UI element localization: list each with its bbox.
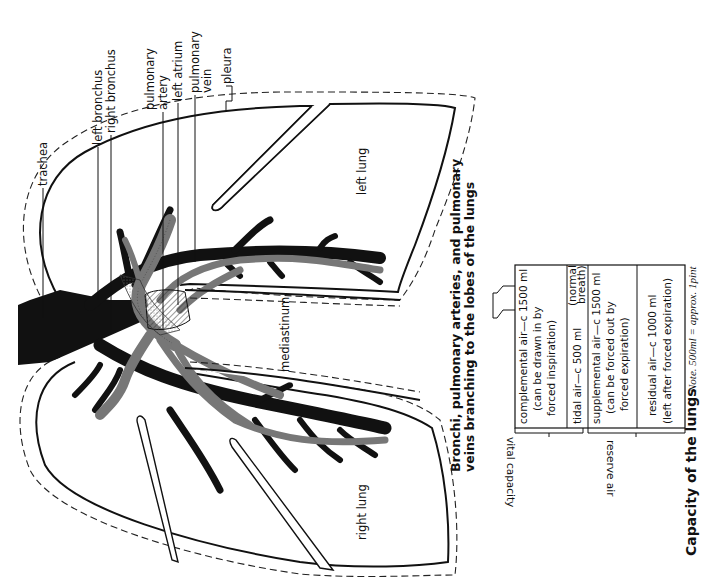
right-lung: [20, 357, 457, 577]
row-residual-line1: residual air—c 1000 ml: [646, 295, 658, 416]
label-right-bronchus: right bronchus: [104, 49, 118, 133]
row-residual-line2: (left after forced expiration): [661, 278, 673, 424]
row-tidal-line1: tidal air—c 500 ml: [571, 328, 583, 424]
label-left-atrium: left atrium: [171, 41, 185, 101]
capacity-title: Capacity of the lungs: [683, 388, 699, 556]
row-supplemental-line1: supplemental air—c 1500 ml: [590, 273, 602, 424]
row-supplemental-line2: (can be forced out by: [604, 301, 616, 414]
label-left-bronchus: left bronchus: [91, 70, 105, 145]
row-complemental-line1: complemental air—c 1500 ml: [517, 269, 529, 424]
capacity-table: complemental air—c 1500 ml (can be drawn…: [493, 265, 685, 507]
lungs-diagram: trachea left bronchus right bronchus pul…: [0, 0, 702, 579]
caption-line-1: Bronchi, pulmonary arteries, and pulmona…: [448, 159, 463, 472]
label-mediastinum: mediastinum: [278, 297, 292, 372]
row-complemental-line2: (can be drawn in by: [531, 306, 543, 411]
row-tidal-aside2: breath): [575, 265, 587, 304]
group-reserve-air: reserve air: [605, 440, 617, 497]
row-complemental-line3: forced inspiration): [545, 320, 557, 416]
label-pulmonary-vein-2: vein: [200, 69, 214, 93]
group-vital-capacity: vital capacity: [505, 437, 517, 507]
label-right-lung: right lung: [355, 484, 369, 540]
label-pulmonary-artery-1: pulmonary: [143, 48, 157, 110]
label-trachea: trachea: [36, 142, 50, 186]
label-pulmonary-artery-2: artery: [156, 75, 170, 110]
label-left-lung: left lung: [355, 148, 369, 195]
row-supplemental-line3: forced expiration): [618, 318, 630, 411]
capacity-note: Note. 500ml = approx. 1pint: [686, 265, 698, 393]
caption-line-2: veins branching to the lobes of the lung…: [462, 182, 477, 472]
label-pleura: pleura: [220, 47, 234, 84]
